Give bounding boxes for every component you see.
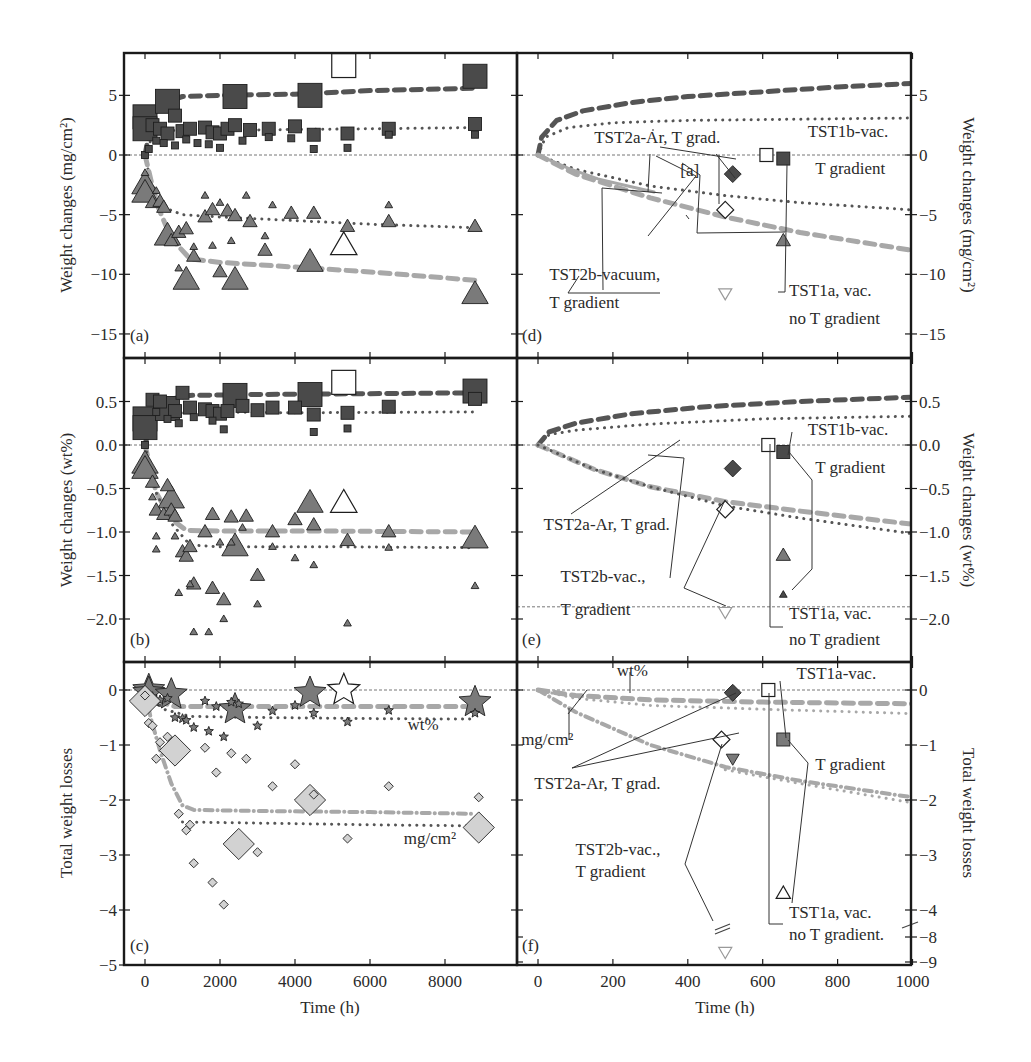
y-tick-label: −0.5 xyxy=(86,480,117,499)
triangle-marker xyxy=(205,507,219,519)
y-tick-label: −10 xyxy=(919,265,946,284)
y-axis-title-c: Total weight losses xyxy=(57,748,76,878)
fit-curve xyxy=(183,822,476,826)
triangle-marker xyxy=(344,619,352,626)
data-series xyxy=(777,733,790,746)
triangle-marker xyxy=(250,568,264,580)
annotation-label: T gradient xyxy=(560,600,630,619)
square-marker xyxy=(344,425,351,432)
star-marker xyxy=(328,673,360,703)
fit-curve xyxy=(145,445,475,532)
triangle-marker xyxy=(160,478,174,490)
annotation-label: mg/cm² xyxy=(404,829,456,848)
x-tick-label: 6000 xyxy=(353,972,387,991)
data-series xyxy=(776,548,790,560)
triangle-marker xyxy=(462,525,488,548)
y-tick-label: −15 xyxy=(90,325,117,344)
triangle-marker xyxy=(310,561,318,568)
annotation-label: T gradient xyxy=(815,159,885,178)
triangle-down-marker xyxy=(719,607,732,618)
triangle-marker xyxy=(205,581,219,593)
square-marker xyxy=(251,404,264,417)
triangle-marker xyxy=(297,489,323,512)
diamond-marker xyxy=(219,900,228,909)
star-marker xyxy=(212,702,221,711)
triangle-marker xyxy=(175,589,183,596)
x-axis-title-left: Time (h) xyxy=(300,998,359,1017)
data-series xyxy=(724,684,741,701)
square-marker xyxy=(332,54,356,78)
triangle-marker xyxy=(258,243,272,255)
triangle-marker xyxy=(216,538,224,545)
diamond-marker xyxy=(208,878,217,887)
diamond-marker xyxy=(724,460,741,477)
leader-line xyxy=(572,693,736,768)
annotation-label: TST1b-vac. xyxy=(808,420,889,439)
panel-label-f: (f) xyxy=(522,936,539,955)
square-marker xyxy=(463,64,487,88)
square-marker xyxy=(310,146,317,153)
triangle-marker xyxy=(340,219,354,231)
y-tick-label: −5 xyxy=(99,206,117,225)
x-tick-label: 8000 xyxy=(428,972,462,991)
triangle-marker xyxy=(254,600,262,607)
diamond-marker xyxy=(152,754,161,763)
panel-label-d: (d) xyxy=(522,326,542,345)
square-marker xyxy=(298,83,322,107)
y-tick-label: 0 xyxy=(109,681,118,700)
square-marker xyxy=(184,122,197,135)
triangle-marker xyxy=(291,554,299,561)
square-marker xyxy=(469,392,482,405)
square-marker xyxy=(469,117,482,130)
triangle-marker xyxy=(243,214,257,226)
triangle-marker xyxy=(471,582,479,589)
y-tick-label: 0 xyxy=(919,681,928,700)
y-tick-label: −2.0 xyxy=(86,610,117,629)
square-marker xyxy=(142,442,149,449)
square-marker xyxy=(176,386,189,399)
annotation-label: TST1a, vac. xyxy=(789,281,872,300)
y-tick-label: −1 xyxy=(99,736,117,755)
y-tick-label: −2 xyxy=(99,791,117,810)
data-series xyxy=(760,149,773,162)
fit-curve xyxy=(538,155,654,192)
y-tick-label: −0.5 xyxy=(919,480,950,499)
triangle-marker xyxy=(776,233,790,245)
triangle-marker xyxy=(307,518,321,530)
square-marker xyxy=(160,140,167,147)
triangle-marker xyxy=(331,232,357,255)
y-tick-label: −3 xyxy=(919,846,937,865)
y-tick-label: −1.0 xyxy=(919,523,950,542)
square-marker xyxy=(472,131,479,138)
leader-line xyxy=(789,452,812,590)
annotation-label: T gradient xyxy=(575,862,645,881)
diamond-marker xyxy=(227,749,236,758)
triangle-marker xyxy=(462,281,488,304)
star-marker xyxy=(204,726,213,735)
y-tick-label: −1.0 xyxy=(86,523,117,542)
y-tick-label: −1.5 xyxy=(919,567,950,586)
triangle-marker xyxy=(242,192,250,199)
data-series xyxy=(777,445,790,458)
square-marker xyxy=(341,406,354,419)
square-marker xyxy=(221,405,234,418)
data-series xyxy=(332,54,356,78)
triangle-marker xyxy=(227,237,235,244)
triangle-marker xyxy=(340,533,354,545)
square-marker xyxy=(307,128,320,141)
x-tick-label: 600 xyxy=(750,972,776,991)
panel-label-b: (b) xyxy=(130,630,150,649)
triangle-down-marker xyxy=(719,947,732,958)
star-marker xyxy=(309,708,318,717)
y-tick-label: −1.5 xyxy=(86,567,117,586)
square-marker xyxy=(220,426,227,433)
square-marker xyxy=(385,131,392,138)
triangle-down-marker xyxy=(726,754,739,765)
star-marker xyxy=(343,717,352,726)
square-marker xyxy=(762,684,775,697)
triangle-marker xyxy=(222,266,248,289)
square-marker xyxy=(154,395,167,408)
square-marker xyxy=(760,149,773,162)
square-marker xyxy=(190,414,197,421)
diamond-marker xyxy=(290,760,299,769)
